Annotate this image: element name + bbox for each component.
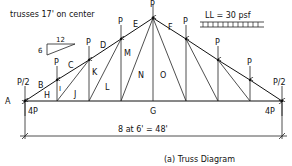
space-label-c: C xyxy=(68,61,74,70)
space-label-g: G xyxy=(150,107,156,116)
space-label-j: J xyxy=(73,90,76,99)
top-chord xyxy=(25,18,282,101)
space-label-m: M xyxy=(124,49,131,58)
load-label-6: P xyxy=(215,38,220,47)
space-label-f: F xyxy=(168,23,173,32)
space-label-k: K xyxy=(92,68,98,77)
load-label-3: P xyxy=(118,17,123,26)
space-label-o: O xyxy=(160,71,166,80)
space-label-i: I xyxy=(59,85,61,93)
load-label-apex: P xyxy=(150,0,155,9)
load-label-5: P xyxy=(183,17,188,26)
space-label-a: A xyxy=(5,97,11,106)
spacing-note: trusses 17' on center xyxy=(10,10,95,19)
vertical-members xyxy=(57,18,250,101)
space-label-h: H xyxy=(44,91,50,100)
slope-triangle xyxy=(47,44,75,55)
space-label-n: N xyxy=(138,71,144,80)
joints xyxy=(24,17,284,103)
slope-rise-label: 6 xyxy=(38,47,43,55)
space-label-l: L xyxy=(105,83,110,92)
live-load-note: LL = 30 psf xyxy=(205,11,251,20)
load-label-2: P xyxy=(86,38,91,47)
space-label-e: E xyxy=(133,20,138,29)
load-label-7: P xyxy=(247,58,252,67)
diagonal-members xyxy=(57,18,250,101)
slope-run-label: 12 xyxy=(56,36,65,44)
load-label-right-end: P/2 xyxy=(273,78,286,87)
space-label-d: D xyxy=(100,41,106,50)
reaction-label-right: 4P xyxy=(265,107,275,116)
live-load-symbol xyxy=(200,22,264,27)
space-label-b: B xyxy=(38,81,44,90)
reaction-label-left: 4P xyxy=(28,107,38,116)
load-label-left-end: P/2 xyxy=(17,78,30,87)
truss-diagram: trusses 17' on center LL = 30 psf 12 6 P… xyxy=(0,0,292,166)
figure-caption: (a) Truss Diagram xyxy=(164,155,235,164)
dimension-text: 8 at 6' = 48' xyxy=(118,125,168,134)
load-label-1: P xyxy=(54,58,59,67)
